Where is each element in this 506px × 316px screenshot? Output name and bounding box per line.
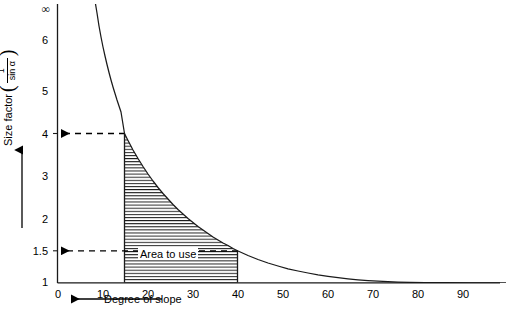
x-tick-label-0: 0: [55, 288, 61, 300]
y-axis-title-text: Size factor: [2, 94, 14, 146]
open-paren: (: [0, 85, 17, 92]
x-tick-label-90: 90: [457, 288, 469, 300]
y-tick-label-5: 5: [24, 85, 48, 97]
area-to-use-label: Area to use: [138, 248, 198, 260]
shaded-area-to-use: [125, 134, 238, 283]
x-axis-title: Degree of slope: [104, 293, 182, 305]
y-tick-label-1: 1: [24, 276, 48, 288]
y-tick-label-6: 6: [24, 34, 48, 46]
fraction-denominator: sin α: [7, 58, 17, 83]
chart-container: ∞ 6 5 4 3 2 1.5 1 0 10 20 30 40 50 60 70…: [0, 0, 506, 316]
close-paren: ): [0, 49, 17, 56]
y-tick-label-4: 4: [24, 128, 48, 140]
x-tick-label-50: 50: [277, 288, 289, 300]
y-tick-label-1-5: 1.5: [18, 245, 48, 257]
x-tick-label-80: 80: [412, 288, 424, 300]
x-tick-label-40: 40: [232, 288, 244, 300]
y-axis-ticks: [53, 134, 58, 251]
x-tick-label-60: 60: [322, 288, 334, 300]
x-tick-label-70: 70: [367, 288, 379, 300]
chart-plot-area: [0, 0, 506, 316]
y-tick-label-3: 3: [24, 170, 48, 182]
y-axis-infinity-label: ∞: [36, 2, 50, 17]
y-axis-title: Size factor ( 1 sin α ): [0, 0, 18, 146]
y-tick-label-2: 2: [24, 213, 48, 225]
x-tick-label-30: 30: [187, 288, 199, 300]
y-axis-title-fraction: 1 sin α: [0, 58, 17, 83]
